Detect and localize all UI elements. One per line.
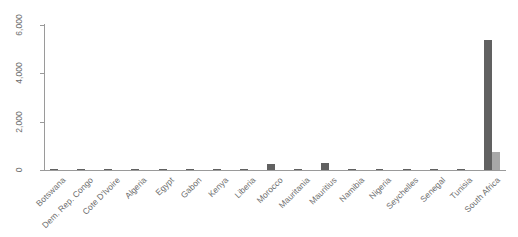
bar-group [235, 24, 262, 170]
bar [50, 169, 58, 170]
bar-group [262, 24, 289, 170]
y-tick-label: 2,000 [14, 111, 24, 132]
plot-area [45, 24, 506, 170]
bar-group [208, 24, 235, 170]
bar-group [398, 24, 425, 170]
x-tick-label: Mauritius [307, 175, 338, 206]
x-tick-label: Gabon [178, 175, 203, 200]
x-tick-label: Namibia [337, 175, 366, 204]
bar [104, 169, 112, 170]
bar-chart: 02,0004,0006,000 BotswanaDem. Rep. Congo… [0, 0, 518, 237]
bar-group [452, 24, 479, 170]
x-axis-line [44, 170, 506, 171]
bar-group [425, 24, 452, 170]
y-tick-label: 0 [14, 168, 24, 173]
bar [131, 169, 139, 170]
y-tick-label: 6,000 [14, 14, 24, 35]
bar [213, 169, 221, 170]
x-tick-label: Senegal [418, 175, 447, 204]
x-tick-label: Kenya [206, 175, 230, 199]
y-tick-mark [40, 170, 45, 171]
bar [376, 169, 384, 170]
bar-group [316, 24, 343, 170]
bar [457, 169, 465, 170]
x-tick-label: Egypt [154, 175, 176, 197]
bar [484, 40, 492, 170]
y-tick-label: 4,000 [14, 63, 24, 84]
bar [77, 169, 85, 170]
bar [321, 163, 329, 170]
bar [294, 169, 302, 170]
bar [186, 169, 194, 170]
bar [430, 169, 438, 170]
bar [492, 152, 500, 170]
bar [348, 169, 356, 170]
bar [240, 169, 248, 170]
bar-group [45, 24, 72, 170]
x-tick-label: Liberia [232, 175, 257, 200]
bar-group [479, 24, 506, 170]
bar-group [370, 24, 397, 170]
x-tick-label: Tunisia [448, 175, 474, 201]
bar-group [72, 24, 99, 170]
bar [403, 169, 411, 170]
bar [159, 169, 167, 170]
bar-group [99, 24, 126, 170]
bar-group [181, 24, 208, 170]
bar-group [289, 24, 316, 170]
bar-group [343, 24, 370, 170]
x-tick-label: Algeria [123, 175, 149, 201]
bar-group [153, 24, 180, 170]
bar-group [126, 24, 153, 170]
bar [267, 164, 275, 170]
